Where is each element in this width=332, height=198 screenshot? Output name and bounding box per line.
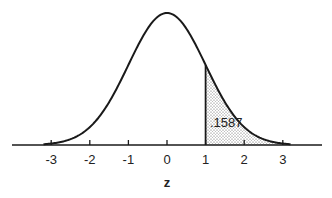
x-tick-label: -3 <box>45 152 57 167</box>
x-tick-label: -1 <box>123 152 135 167</box>
x-axis-label: z <box>164 175 171 190</box>
x-tick-label: 2 <box>241 152 248 167</box>
density-curve-path <box>43 13 290 144</box>
x-tick-label: 0 <box>163 152 170 167</box>
x-tick-label: 3 <box>279 152 286 167</box>
tail-area-label: .1587 <box>210 115 243 130</box>
x-axis-tick-labels: -3-2-10123 <box>45 152 286 167</box>
shaded-tail-area <box>206 65 291 145</box>
normal-distribution-chart: -3-2-10123 .1587 z <box>0 0 332 198</box>
density-curve <box>43 13 290 144</box>
x-tick-label: 1 <box>202 152 209 167</box>
x-tick-label: -2 <box>84 152 96 167</box>
stippled-area <box>206 65 291 145</box>
